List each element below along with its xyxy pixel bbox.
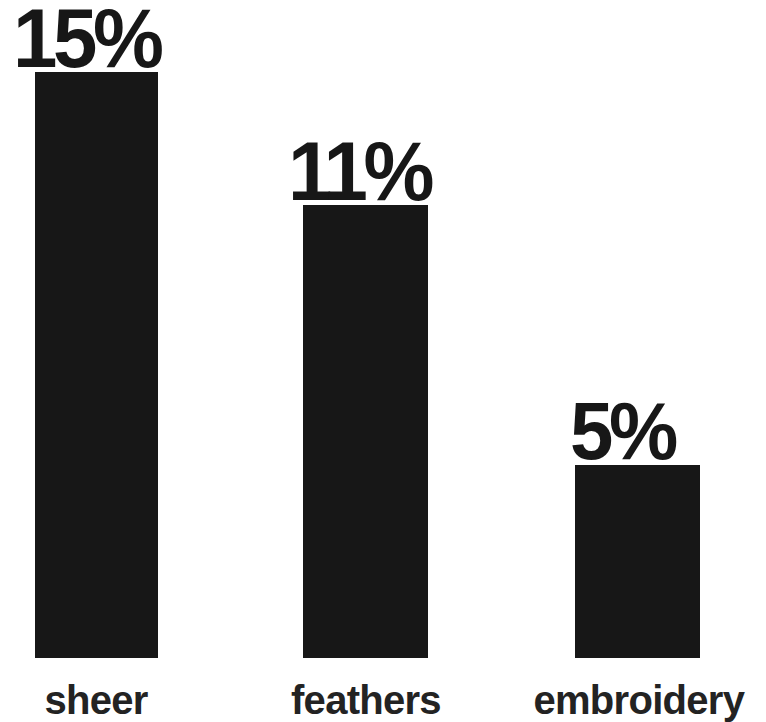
category-label-feathers: feathers: [291, 680, 441, 720]
value-label-embroidery: 5%: [570, 396, 674, 467]
category-label-sheer: sheer: [45, 680, 148, 720]
category-label-embroidery: embroidery: [534, 680, 745, 720]
bar-chart: 15% 11% 5% sheer feathers embroidery: [0, 0, 766, 722]
bar-feathers: [303, 205, 428, 658]
value-label-sheer: 15%: [13, 2, 160, 74]
plot-area: 15% 11% 5% sheer feathers embroidery: [0, 0, 766, 722]
bar-embroidery: [575, 465, 700, 658]
value-label-feathers: 11%: [288, 135, 430, 207]
bar-sheer: [35, 72, 158, 658]
